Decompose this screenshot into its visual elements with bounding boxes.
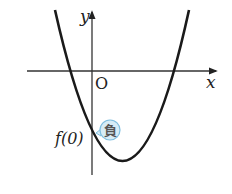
f0-label: f(0) [54, 129, 84, 148]
x-axis-label: x [206, 72, 216, 92]
badge-text: 負 [104, 123, 117, 138]
y-axis-label: y [79, 6, 90, 26]
negative-badge: 負 [96, 120, 120, 140]
origin-label: O [95, 74, 108, 93]
parabola-diagram: y x O f(0) 負 [0, 0, 232, 194]
